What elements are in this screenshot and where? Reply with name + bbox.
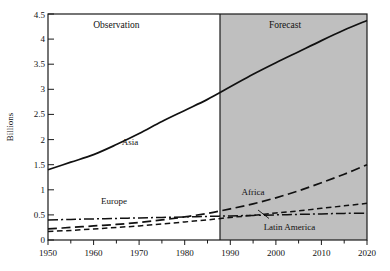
y-tick-label: 1: [41, 185, 46, 195]
x-tick-label: 1990: [221, 248, 240, 258]
chart-svg: 0 0.5 1 1.5 2 2.5 3 3.5 4 4.5 Billions: [0, 0, 390, 271]
y-tick-label: 2: [41, 135, 46, 145]
x-tick-label: 2020: [358, 248, 377, 258]
y-axis-title: Billions: [5, 112, 15, 141]
x-tick-label: 1960: [85, 248, 104, 258]
y-tick-label: 0.5: [34, 210, 46, 220]
x-tick-label: 1970: [130, 248, 149, 258]
series-label-africa: Africa: [242, 187, 265, 197]
series-label-latin-america: Latin America: [264, 222, 316, 232]
y-tick-label: 3: [41, 84, 46, 94]
x-tick-label: 2000: [267, 248, 286, 258]
population-forecast-chart: 0 0.5 1 1.5 2 2.5 3 3.5 4 4.5 Billions: [0, 0, 390, 271]
y-tick-label: 1.5: [34, 160, 46, 170]
x-tick-label: 1980: [176, 248, 195, 258]
observation-annotation: Observation: [93, 20, 140, 30]
forecast-annotation: Forecast: [269, 20, 302, 30]
series-label-europe: Europe: [101, 196, 127, 206]
series-label-asia: Asia: [122, 137, 139, 147]
x-tick-label: 1950: [39, 248, 58, 258]
y-tick-label: 4: [41, 34, 46, 44]
y-tick-label: 2.5: [34, 109, 46, 119]
y-tick-label: 3.5: [34, 59, 46, 69]
y-tick-label: 0: [41, 235, 46, 245]
y-tick-label: 4.5: [34, 10, 46, 20]
observation-region: [48, 14, 220, 240]
x-tick-label: 2010: [312, 248, 331, 258]
